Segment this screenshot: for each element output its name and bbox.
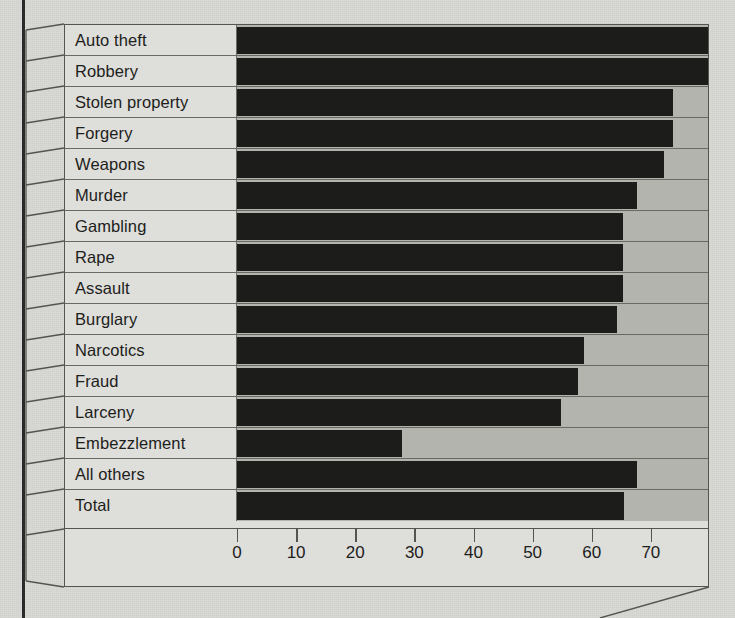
bar-track <box>237 273 708 303</box>
category-label: Larceny <box>65 397 237 427</box>
bar <box>237 151 664 178</box>
bar <box>237 89 673 116</box>
bar <box>237 27 708 54</box>
category-label: Murder <box>65 180 237 210</box>
bar-track <box>237 211 708 241</box>
axis-tick-label: 60 <box>582 543 601 563</box>
axis-tick-mark <box>474 529 475 542</box>
chart-row: Narcotics <box>65 335 708 366</box>
page-gutter-rule <box>22 0 25 618</box>
chart-row: Embezzlement <box>65 428 708 459</box>
category-label: Narcotics <box>65 335 237 365</box>
category-label: Embezzlement <box>65 428 237 458</box>
chart-row: Larceny <box>65 397 708 428</box>
category-label: Gambling <box>65 211 237 241</box>
axis-tick-label: 10 <box>287 543 306 563</box>
chart-row: Total <box>65 490 708 521</box>
chart-row: Fraud <box>65 366 708 397</box>
bar <box>237 120 673 147</box>
category-label: Fraud <box>65 366 237 396</box>
bar <box>237 58 708 85</box>
chart-row: Auto theft <box>65 25 708 56</box>
axis-tick-label: 20 <box>346 543 365 563</box>
axis-tick-label: 0 <box>232 543 241 563</box>
bar <box>237 306 617 333</box>
axis-tick-label: 70 <box>641 543 660 563</box>
bar-track <box>237 335 708 365</box>
chart-rows: Auto theftRobberyStolen propertyForgeryW… <box>65 25 708 528</box>
category-label: Rape <box>65 242 237 272</box>
bar-track <box>237 25 708 55</box>
bar-track <box>237 149 708 179</box>
axis-tick-mark <box>355 529 356 542</box>
bar <box>237 492 624 520</box>
chart-row: Stolen property <box>65 87 708 118</box>
axis-tick-mark <box>237 529 238 542</box>
bar-track <box>237 490 708 521</box>
chart-row: All others <box>65 459 708 490</box>
bar <box>237 275 623 302</box>
category-label: Robbery <box>65 56 237 86</box>
chart-row: Gambling <box>65 211 708 242</box>
chart-row: Assault <box>65 273 708 304</box>
category-label: All others <box>65 459 237 489</box>
axis-tick-mark <box>533 529 534 542</box>
chart-row: Weapons <box>65 149 708 180</box>
bar <box>237 461 637 488</box>
chart-row: Robbery <box>65 56 708 87</box>
axis-tick-label: 40 <box>464 543 483 563</box>
category-label: Forgery <box>65 118 237 148</box>
bar <box>237 182 637 209</box>
bar <box>237 337 584 364</box>
chart-row: Rape <box>65 242 708 273</box>
category-label: Auto theft <box>65 25 237 55</box>
axis-tick-label: 30 <box>405 543 424 563</box>
category-label: Total <box>65 490 237 521</box>
bar <box>237 368 578 395</box>
x-axis: 010203040506070 <box>64 529 709 587</box>
chart-row: Forgery <box>65 118 708 149</box>
bar-track <box>237 118 708 148</box>
bar-track <box>237 397 708 427</box>
bar-track <box>237 242 708 272</box>
bar <box>237 430 402 457</box>
bar-track <box>237 366 708 396</box>
axis-tick-mark <box>296 529 297 542</box>
bar-track <box>237 304 708 334</box>
bar-track <box>237 459 708 489</box>
bar-track <box>237 428 708 458</box>
bar-track <box>237 56 708 86</box>
bar <box>237 244 623 271</box>
category-label: Weapons <box>65 149 237 179</box>
category-label: Burglary <box>65 304 237 334</box>
chart-plot-frame: Auto theftRobberyStolen propertyForgeryW… <box>64 24 709 529</box>
chart-row: Murder <box>65 180 708 211</box>
axis-tick-mark <box>414 529 415 542</box>
axis-tick-mark <box>592 529 593 542</box>
bar-track <box>237 180 708 210</box>
category-label: Assault <box>65 273 237 303</box>
axis-tick-label: 50 <box>523 543 542 563</box>
bar-track <box>237 87 708 117</box>
chart-row: Burglary <box>65 304 708 335</box>
bar <box>237 213 623 240</box>
axis-tick-mark <box>651 529 652 542</box>
bar <box>237 399 561 426</box>
category-label: Stolen property <box>65 87 237 117</box>
